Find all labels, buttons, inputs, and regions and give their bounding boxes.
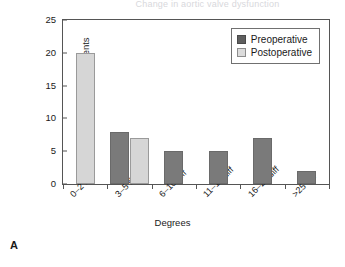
legend-label-preoperative: Preoperative xyxy=(251,34,308,45)
y-tick-label: 20 xyxy=(30,48,63,58)
x-tick-mark xyxy=(63,184,64,189)
bar-postoperative xyxy=(130,138,149,184)
y-tick-label: 0 xyxy=(30,179,63,189)
x-tick-mark xyxy=(329,184,330,189)
y-tick-label: 5 xyxy=(30,146,63,156)
bar-preoperative xyxy=(297,171,316,184)
x-tick-mark xyxy=(152,184,153,189)
bar-postoperative xyxy=(76,53,95,184)
bar-preoperative xyxy=(253,138,272,184)
chart-legend: Preoperative Postoperative xyxy=(231,28,320,64)
bar-preoperative xyxy=(110,132,129,184)
y-tick-label: 10 xyxy=(30,114,63,124)
bar-preoperative xyxy=(209,151,228,184)
x-tick-mark xyxy=(107,184,108,189)
square-swatch-dark-icon xyxy=(237,35,246,44)
square-swatch-light-icon xyxy=(237,48,246,57)
cropped-figure-title: Change in aortic valve dysfunction xyxy=(95,0,320,9)
x-tick-mark xyxy=(240,184,241,189)
x-tick-mark xyxy=(196,184,197,189)
x-axis-title: Degrees xyxy=(0,217,345,228)
figure-panel-a: Change in aortic valve dysfunction Numbe… xyxy=(0,0,345,267)
plot-area: Number of patients 0510152025 0–2 diff3–… xyxy=(62,19,330,185)
y-tick-label: 15 xyxy=(30,81,63,91)
legend-label-postoperative: Postoperative xyxy=(251,47,312,58)
legend-item-preoperative: Preoperative xyxy=(237,33,312,46)
bar-preoperative xyxy=(164,151,183,184)
panel-label: A xyxy=(10,239,18,251)
legend-item-postoperative: Postoperative xyxy=(237,46,312,59)
y-tick-label: 25 xyxy=(30,15,63,25)
x-tick-mark xyxy=(285,184,286,189)
